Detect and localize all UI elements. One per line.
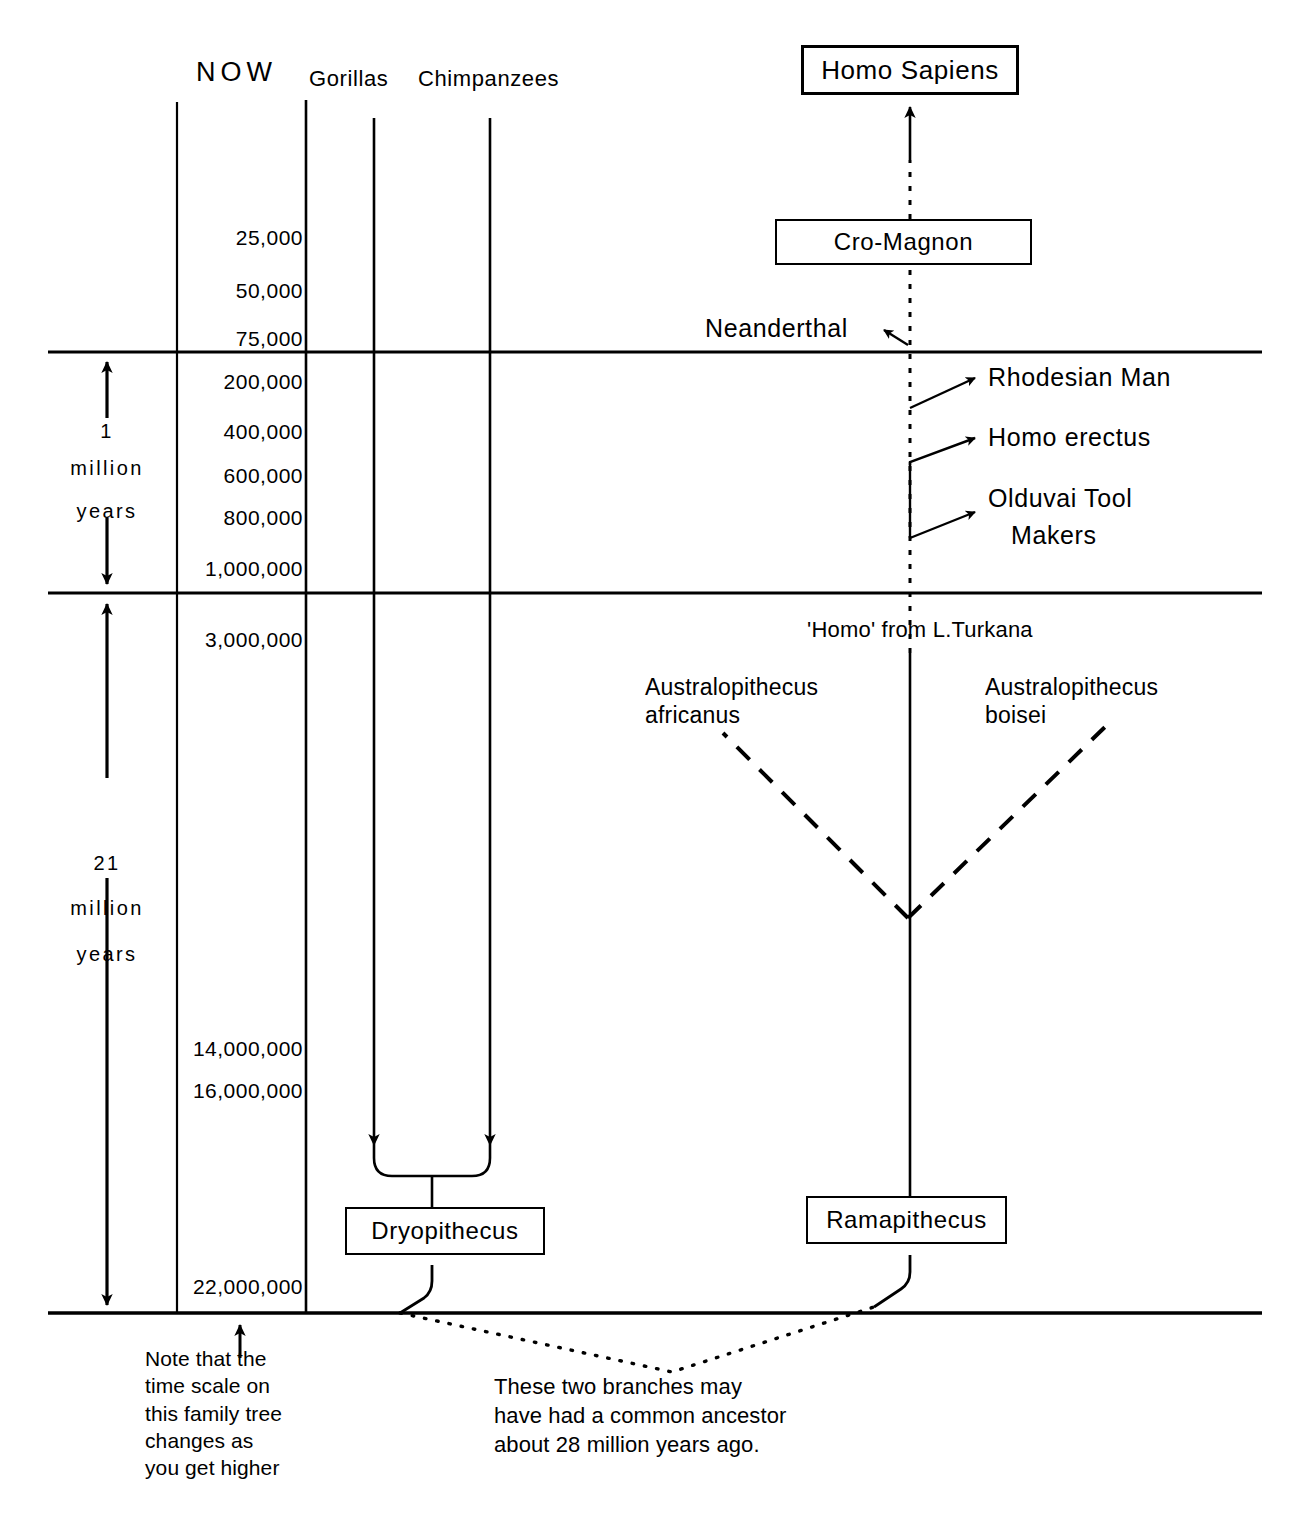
box-ramapithecus: Ramapithecus xyxy=(806,1196,1007,1244)
dryopithecus-stem-down xyxy=(400,1265,432,1313)
rhodesian-man-branch xyxy=(910,378,975,408)
common-ancestor-dotted-v xyxy=(400,1307,874,1372)
ramapithecus-stem-down xyxy=(874,1255,910,1307)
column-header-chimpanzees: Chimpanzees xyxy=(418,66,559,92)
era-21m-amount: 21 xyxy=(37,852,177,876)
scale-value-22000000: 22,000,000 xyxy=(153,1275,303,1300)
scale-value-75000: 75,000 xyxy=(153,327,303,352)
scale-value-50000: 50,000 xyxy=(153,279,303,304)
ape-join-path xyxy=(374,1145,490,1176)
family-tree-diagram: NOW Gorillas Chimpanzees 25,000 50,000 7… xyxy=(0,0,1299,1520)
label-australopithecus-africanus-line2: africanus xyxy=(645,701,740,729)
homo-erectus-branch xyxy=(910,438,975,465)
label-olduvai-makers: Makers xyxy=(1011,521,1097,551)
label-australopithecus-boisei-line2: boisei xyxy=(985,701,1046,729)
scale-value-3000000: 3,000,000 xyxy=(153,628,303,653)
label-olduvai-tool: Olduvai Tool xyxy=(988,484,1132,514)
note-common-ancestor: These two branches may have had a common… xyxy=(494,1372,786,1459)
scale-value-16000000: 16,000,000 xyxy=(153,1079,303,1104)
note-time-scale: Note that the time scale on this family … xyxy=(145,1345,282,1481)
label-rhodesian-man: Rhodesian Man xyxy=(988,363,1171,393)
era-1m-unit-million: million xyxy=(37,457,177,481)
era-21m-unit-million: million xyxy=(37,897,177,921)
era-21m-unit-years: years xyxy=(37,943,177,967)
scale-value-25000: 25,000 xyxy=(153,226,303,251)
label-neanderthal: Neanderthal xyxy=(705,314,848,344)
scale-value-14000000: 14,000,000 xyxy=(153,1037,303,1062)
scale-value-1000000: 1,000,000 xyxy=(153,557,303,582)
box-cro-magnon: Cro-Magnon xyxy=(775,219,1032,265)
label-australopithecus-boisei-line1: Australopithecus xyxy=(985,673,1158,701)
australopithecus-boisei-branch xyxy=(908,727,1105,918)
label-australopithecus-africanus-line1: Australopithecus xyxy=(645,673,818,701)
australopithecus-africanus-branch xyxy=(723,733,908,918)
era-1m-amount: 1 xyxy=(37,420,177,444)
olduvai-branch xyxy=(910,512,975,538)
label-homo-erectus: Homo erectus xyxy=(988,423,1151,453)
box-dryopithecus: Dryopithecus xyxy=(345,1207,545,1255)
box-homo-sapiens: Homo Sapiens xyxy=(801,45,1019,95)
scale-value-200000: 200,000 xyxy=(153,370,303,395)
now-label: NOW xyxy=(196,57,277,89)
label-homo-from-turkana: 'Homo' from L.Turkana xyxy=(807,617,1033,643)
neanderthal-arrow xyxy=(884,330,908,345)
column-header-gorillas: Gorillas xyxy=(309,66,388,92)
era-1m-unit-years: years xyxy=(37,500,177,524)
